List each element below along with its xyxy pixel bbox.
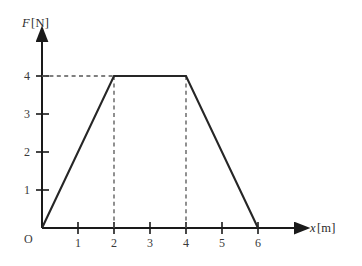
- y-axis-symbol: F: [22, 16, 30, 30]
- y-axis-label: F [N]: [22, 16, 49, 31]
- x-tick-label-1: 1: [70, 236, 86, 251]
- x-tick-label-5: 5: [214, 236, 230, 251]
- x-tick-label-6: 6: [250, 236, 266, 251]
- x-tick-label-4: 4: [178, 236, 194, 251]
- y-tick-label-2: 2: [16, 145, 30, 160]
- guide-lines: [42, 76, 186, 228]
- chart-canvas: [0, 0, 362, 266]
- origin-label: O: [24, 232, 33, 247]
- force-curve: [42, 76, 258, 228]
- x-tick-label-2: 2: [106, 236, 122, 251]
- y-axis-unit: [N]: [31, 16, 49, 30]
- force-position-chart: F [N] x [m] O 1 2 3 4 5 6 1 2 3 4: [0, 0, 362, 266]
- x-axis-unit: [m]: [317, 221, 336, 235]
- y-tick-label-1: 1: [16, 183, 30, 198]
- x-axis-label: x [m]: [310, 221, 336, 236]
- y-tick-label-3: 3: [16, 107, 30, 122]
- x-tick-label-3: 3: [142, 236, 158, 251]
- y-tick-label-4: 4: [16, 69, 30, 84]
